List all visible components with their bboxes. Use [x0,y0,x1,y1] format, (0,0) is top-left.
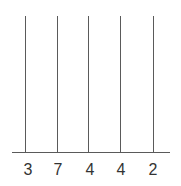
abacus-diagram: 3 7 4 4 2 [0,0,181,186]
rod-label-2: 7 [48,162,68,178]
rod-label-1: 3 [18,162,38,178]
rod-1 [25,16,26,153]
rod-5 [153,16,154,153]
rod-4 [120,16,121,153]
abacus-base [12,152,170,153]
rod-2 [57,16,58,153]
rod-label-5: 2 [143,162,163,178]
rod-label-4: 4 [111,162,131,178]
rod-3 [88,16,89,153]
rod-label-3: 4 [80,162,100,178]
